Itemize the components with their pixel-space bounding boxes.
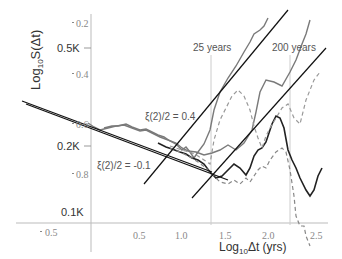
y-axis-label: Log10S(Δt) (28, 30, 45, 90)
x-axis-label: Log10Δt (yrs) (219, 240, 287, 256)
x-tick-label-2-5: 2.5 (310, 230, 323, 241)
y-tick-label-0-5K: 0.5K (57, 42, 80, 54)
y-tick-label-0-4: 0.4 (76, 69, 89, 80)
x-tick-label-0-5: 0.5 (133, 230, 146, 241)
y-tick-label-0-6: 0.6 (76, 119, 89, 130)
series-solid-gray-right (88, 20, 310, 155)
chart: 0.2 0.4 0.6 0.8 0.5 0.5K 0.2K 0.1K Log10… (0, 0, 342, 259)
annotation-xi-0-4: ξ(2)/2 = 0.4 (145, 111, 196, 123)
x-tick-label-1-0: 1.0 (175, 230, 188, 241)
series-solid-gray-upper (104, 18, 268, 158)
y-tick-label-0-2K: 0.2K (57, 140, 80, 152)
series-dashed-gray-lower (170, 148, 310, 246)
fit-line-0-4-a (144, 10, 288, 184)
annotation-25-years: 25 years (193, 42, 231, 53)
y-tick-label-0-1K: 0.1K (61, 206, 84, 218)
annotation-200-years: 200 years (272, 42, 316, 53)
y-tick-label-neg-0-5: 0.5 (45, 227, 58, 238)
y-tick-label-0-2: 0.2 (76, 18, 89, 29)
series-solid-black (158, 116, 322, 196)
y-tick-label-0-8: 0.8 (76, 169, 89, 180)
annotation-xi-neg-0-1: ξ(2)/2 = -0.1 (97, 160, 151, 172)
